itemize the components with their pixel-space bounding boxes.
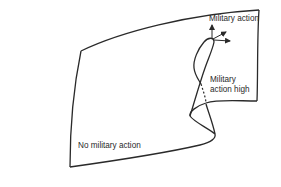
label-military-action: Military action (209, 14, 259, 24)
label-military-action-high-line2: action high (210, 85, 250, 95)
label-military-action-high-line1: Military (210, 75, 236, 85)
fold-back-strand (206, 104, 215, 134)
catastrophe-surface-diagram: Military action Military action high No … (0, 0, 281, 187)
fold-back-strand-dashed (201, 84, 206, 102)
arrow-right-icon (214, 40, 230, 41)
arrow-up-right-icon (213, 32, 226, 39)
upper-sheet-bottom-edge (190, 101, 257, 117)
label-no-military-action: No military action (78, 141, 141, 151)
